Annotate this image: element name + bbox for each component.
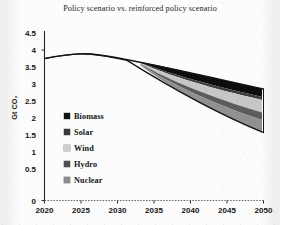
- x-tick-2045: 2045: [210, 206, 244, 215]
- x-tick-2030: 2030: [101, 206, 135, 215]
- legend-label-hydro: Hydro: [74, 160, 97, 169]
- legend-swatch-nuclear: [64, 177, 70, 183]
- y-tick-0: 0: [10, 197, 36, 206]
- y-axis-label: Gt CO₂: [10, 85, 19, 131]
- legend-label-solar: Solar: [74, 128, 93, 137]
- legend-swatch-biomass: [64, 113, 70, 119]
- legend-label-wind: Wind: [74, 144, 94, 153]
- x-tick-2020: 2020: [28, 206, 62, 215]
- legend-item-wind: Wind: [64, 140, 104, 156]
- x-tick-2025: 2025: [64, 206, 98, 215]
- chart-legend: Biomass Solar Wind Hydro Nuclear: [64, 108, 104, 188]
- legend-label-nuclear: Nuclear: [74, 176, 102, 185]
- y-tick-3-5: 3.5: [10, 63, 36, 72]
- y-tick-4: 4: [10, 46, 36, 55]
- chart-plot-area: [0, 0, 280, 225]
- scenario-wedge-bands: [141, 62, 264, 133]
- legend-item-biomass: Biomass: [64, 108, 104, 124]
- x-tick-2040: 2040: [174, 206, 208, 215]
- x-tick-2050: 2050: [247, 206, 281, 215]
- y-tick-1-5: 1.5: [10, 131, 36, 140]
- legend-label-biomass: Biomass: [74, 112, 104, 121]
- legend-item-nuclear: Nuclear: [64, 172, 104, 188]
- legend-item-solar: Solar: [64, 124, 104, 140]
- chart-figure: Policy scenario vs. reinforced policy sc…: [0, 0, 280, 225]
- y-tick-0-5: 0.5: [10, 165, 36, 174]
- y-tick-4-5: 4.5: [10, 29, 36, 38]
- x-tick-2035: 2035: [137, 206, 171, 215]
- legend-item-hydro: Hydro: [64, 156, 104, 172]
- legend-swatch-wind: [64, 145, 70, 151]
- legend-swatch-hydro: [64, 161, 70, 167]
- legend-swatch-solar: [64, 129, 70, 135]
- y-tick-1: 1: [10, 148, 36, 157]
